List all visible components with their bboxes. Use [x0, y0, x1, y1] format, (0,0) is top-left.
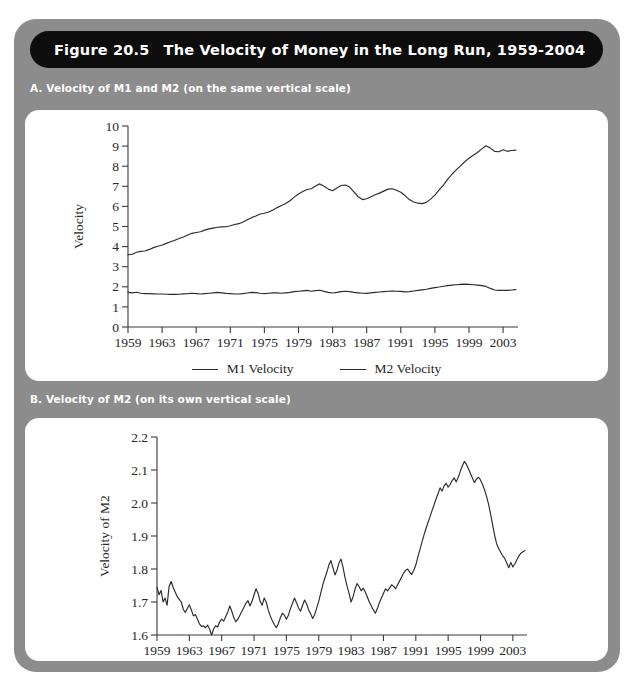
svg-text:1995: 1995	[421, 335, 448, 350]
svg-text:1971: 1971	[241, 643, 268, 658]
svg-text:2003: 2003	[499, 643, 526, 658]
svg-text:1983: 1983	[338, 643, 365, 658]
svg-text:1: 1	[112, 300, 119, 315]
svg-text:2.2: 2.2	[131, 430, 148, 445]
svg-text:3: 3	[112, 259, 119, 274]
legend-label-m2: M2 Velocity	[375, 361, 442, 377]
panel-b-chart-card: 1.61.71.81.92.02.12.21959196319671971197…	[25, 418, 608, 661]
svg-text:1987: 1987	[370, 643, 397, 658]
svg-text:1991: 1991	[402, 643, 429, 658]
chart-legend: M1 Velocity M2 Velocity	[25, 358, 608, 380]
svg-text:1.6: 1.6	[131, 628, 148, 643]
svg-text:1971: 1971	[217, 335, 244, 350]
svg-text:1.9: 1.9	[131, 529, 148, 544]
legend-label-m1: M1 Velocity	[227, 361, 294, 377]
svg-text:2.1: 2.1	[131, 463, 148, 478]
svg-text:1975: 1975	[251, 335, 278, 350]
legend-item-m2: M2 Velocity	[340, 361, 442, 377]
figure-number: Figure 20.5	[54, 42, 150, 58]
svg-text:Velocity of M2: Velocity of M2	[97, 495, 112, 577]
figure-title-text: The Velocity of Money in the Long Run, 1…	[164, 42, 586, 58]
figure-title-bar: Figure 20.5The Velocity of Money in the …	[30, 31, 603, 68]
svg-text:1963: 1963	[149, 335, 176, 350]
svg-text:5: 5	[112, 219, 119, 234]
svg-text:6: 6	[112, 199, 119, 214]
svg-text:1983: 1983	[319, 335, 346, 350]
panel-b-caption: B. Velocity of M2 (on its own vertical s…	[30, 393, 291, 405]
panel-b-plot: 1.61.71.81.92.02.12.21959196319671971197…	[25, 418, 608, 661]
svg-text:7: 7	[112, 179, 119, 194]
svg-text:1963: 1963	[176, 643, 203, 658]
legend-line-icon	[340, 369, 366, 370]
svg-text:Velocity: Velocity	[71, 204, 86, 249]
svg-text:1999: 1999	[455, 335, 482, 350]
svg-text:1.8: 1.8	[131, 562, 148, 577]
svg-text:8: 8	[112, 159, 119, 174]
svg-text:4: 4	[112, 239, 119, 254]
figure-container: Figure 20.5The Velocity of Money in the …	[0, 0, 638, 692]
svg-text:1967: 1967	[208, 643, 235, 658]
svg-text:1979: 1979	[305, 643, 332, 658]
svg-text:1991: 1991	[387, 335, 414, 350]
svg-text:10: 10	[106, 119, 120, 134]
svg-text:1979: 1979	[285, 335, 312, 350]
panel-a-chart-card: 0123456789101959196319671971197519791983…	[25, 110, 608, 381]
svg-text:9: 9	[112, 139, 119, 154]
svg-text:2.0: 2.0	[131, 496, 148, 511]
panel-a-caption: A. Velocity of M1 and M2 (on the same ve…	[30, 82, 351, 94]
svg-text:1.7: 1.7	[131, 595, 148, 610]
legend-line-icon	[192, 369, 218, 370]
svg-text:1987: 1987	[353, 335, 380, 350]
figure-title: Figure 20.5The Velocity of Money in the …	[54, 42, 585, 58]
svg-text:2003: 2003	[490, 335, 517, 350]
svg-text:0: 0	[112, 320, 119, 335]
svg-text:1975: 1975	[273, 643, 300, 658]
svg-text:1999: 1999	[467, 643, 494, 658]
panel-a-plot: 0123456789101959196319671971197519791983…	[25, 110, 608, 381]
svg-text:1959: 1959	[144, 643, 171, 658]
svg-text:2: 2	[112, 279, 119, 294]
svg-text:1967: 1967	[183, 335, 210, 350]
svg-text:1959: 1959	[115, 335, 142, 350]
legend-item-m1: M1 Velocity	[192, 361, 294, 377]
svg-text:1995: 1995	[435, 643, 462, 658]
